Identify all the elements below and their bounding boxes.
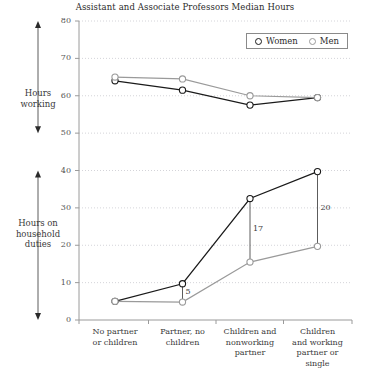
legend-item-men: Men <box>309 36 339 46</box>
chart-container: Assistant and Associate Professors Media… <box>0 0 370 386</box>
gap-annotation-label: 17 <box>253 224 263 233</box>
circle-marker-icon <box>255 38 262 45</box>
y-axis-tick-label: 40 <box>47 166 71 175</box>
x-axis-category-label: Partner, no children <box>148 327 218 348</box>
circle-marker-icon <box>309 38 316 45</box>
y-axis-tick-label: 10 <box>47 278 71 287</box>
gridlines <box>79 21 352 283</box>
chart-legend: Women Men <box>246 33 348 49</box>
y-axis-tick-label: 30 <box>47 203 71 212</box>
legend-label-women: Women <box>266 36 298 46</box>
y-axis-tick-label: 80 <box>47 16 71 25</box>
series-markers <box>112 74 321 305</box>
axis-lines <box>75 21 352 324</box>
panel-label: Hours on household duties <box>2 218 74 250</box>
y-axis-tick-label: 50 <box>47 128 71 137</box>
legend-item-women: Women <box>255 36 298 46</box>
x-axis-category-label: Children and working partner or single <box>283 327 353 369</box>
gap-annotation-label: 20 <box>321 203 331 212</box>
legend-label-men: Men <box>320 36 339 46</box>
panel-label: Hours working <box>2 88 74 109</box>
panel-bracket-arrows <box>35 21 41 320</box>
gap-annotation-label: 5 <box>186 287 191 296</box>
y-axis-tick-label: 0 <box>47 315 71 324</box>
y-axis-tick-label: 70 <box>47 53 71 62</box>
x-axis-category-label: No partner or children <box>80 327 150 348</box>
series-lines <box>115 77 318 302</box>
x-axis-category-label: Children and nonworking partner <box>215 327 285 359</box>
